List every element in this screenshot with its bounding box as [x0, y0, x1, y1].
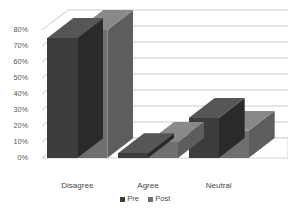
- legend-label: Post: [155, 195, 170, 203]
- x-axis-category-label: Neutral: [179, 180, 259, 191]
- plot-area: [32, 6, 288, 178]
- y-axis-tick-label: 40%: [14, 90, 28, 98]
- bar-series-layer: [32, 6, 288, 178]
- bar-side-face: [107, 10, 133, 158]
- bar-side-face: [77, 18, 103, 158]
- x-axis-labels: DisagreeAgreeNeutral: [0, 180, 290, 194]
- legend-item-post[interactable]: Post: [148, 195, 171, 203]
- legend-label: Pre: [127, 195, 139, 203]
- y-axis-tick-label: 30%: [14, 106, 28, 114]
- y-axis-tick-label: 60%: [14, 58, 28, 66]
- legend-swatch-icon: [148, 197, 153, 202]
- bar-front-face: [47, 38, 77, 158]
- legend-swatch-icon: [120, 197, 125, 202]
- chart-legend: PrePost: [0, 195, 290, 203]
- legend-item-pre[interactable]: Pre: [120, 195, 139, 203]
- y-axis-tick-label: 70%: [14, 42, 28, 50]
- y-axis-tick-label: 0%: [18, 154, 28, 162]
- x-axis-category-label: Disagree: [37, 180, 117, 191]
- y-axis-tick-label: 80%: [14, 26, 28, 34]
- bar-disagree-pre: [47, 6, 77, 158]
- y-axis-tick-label: 10%: [14, 138, 28, 146]
- y-axis-tick-label: 20%: [14, 122, 28, 130]
- bar-chart: 0%10%20%30%40%50%60%70%80% DisagreeAgree…: [0, 0, 290, 213]
- y-axis-tick-label: 50%: [14, 74, 28, 82]
- x-axis-category-label: Agree: [108, 180, 188, 191]
- bar-front-face: [118, 153, 148, 158]
